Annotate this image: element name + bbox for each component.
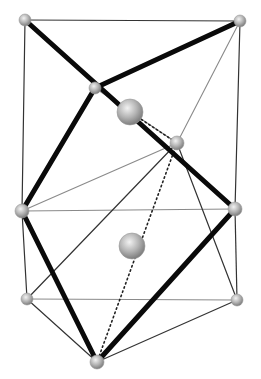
edges-layer	[22, 20, 240, 362]
edge-left-right-middle	[22, 143, 177, 211]
atom-top-right-icon	[234, 15, 246, 27]
edge-top-left-left	[22, 20, 25, 211]
edge-lower-left-bottom	[27, 299, 97, 362]
edge-lower-right-bottom	[97, 300, 237, 362]
edge-upper-middle-left	[22, 88, 95, 211]
atom-right-icon	[228, 202, 242, 216]
edge-lower-left-lower-right	[27, 299, 237, 300]
atom-top-left-icon	[19, 14, 31, 26]
edge-right-lower-right	[235, 209, 237, 300]
edge-bottom-right	[97, 209, 235, 362]
atom-large-center-icon	[119, 233, 145, 259]
atom-lower-right-icon	[231, 294, 243, 306]
atom-upper-middle-icon	[89, 82, 101, 94]
atom-large-upper-icon	[117, 99, 143, 125]
atom-lower-left-icon	[21, 293, 33, 305]
atom-bottom-icon	[90, 355, 104, 369]
edge-top-right-right-middle	[177, 21, 240, 143]
crystal-structure-diagram	[0, 0, 261, 379]
edge-left-bottom	[22, 211, 97, 362]
polyhedron-canvas	[0, 0, 261, 379]
atom-right-middle-icon	[170, 136, 184, 150]
edge-top-right-right	[235, 21, 240, 209]
atom-left-icon	[15, 204, 29, 218]
edge-top-left-top-right	[25, 20, 240, 21]
edge-top-right-upper-middle	[95, 21, 240, 88]
